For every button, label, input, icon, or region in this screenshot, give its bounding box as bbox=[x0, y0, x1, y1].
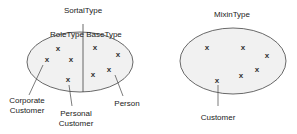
person-label: Person bbox=[114, 99, 139, 108]
basetype-label: BaseType bbox=[86, 30, 122, 39]
instance-marker: x bbox=[239, 71, 244, 80]
instance-marker: x bbox=[69, 55, 74, 64]
instance-marker: x bbox=[265, 51, 270, 60]
roletype-label: RoleType bbox=[50, 30, 84, 39]
instance-marker: x bbox=[116, 50, 121, 59]
instance-marker: x bbox=[66, 75, 71, 84]
corporate-customer-label-1: Corporate bbox=[9, 96, 45, 105]
sortaltype-ellipse bbox=[27, 32, 133, 92]
customer-label: Customer bbox=[201, 113, 236, 122]
mixintype-ellipse bbox=[180, 28, 286, 94]
instance-marker: x bbox=[215, 76, 220, 85]
corporate-customer-label-2: Customer bbox=[10, 106, 45, 115]
personal-customer-label-1: Personal bbox=[60, 109, 92, 118]
instance-marker: x bbox=[93, 43, 98, 52]
instance-marker: x bbox=[205, 43, 210, 52]
sortaltype-title: SortalType bbox=[64, 6, 103, 15]
instance-marker: x bbox=[45, 55, 50, 64]
diagram-canvas: SortalType RoleType BaseType x x x x x x… bbox=[0, 0, 297, 134]
mixintype-title: MixinType bbox=[214, 10, 251, 19]
instance-marker: x bbox=[91, 70, 96, 79]
instance-marker: x bbox=[56, 44, 61, 53]
instance-marker: x bbox=[107, 65, 112, 74]
personal-customer-label-2: Customer bbox=[59, 119, 94, 128]
instance-marker: x bbox=[241, 43, 246, 52]
instance-marker: x bbox=[255, 65, 260, 74]
